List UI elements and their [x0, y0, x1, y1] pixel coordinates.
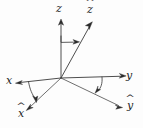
- axis-label-y-hat: ^ y: [127, 100, 133, 111]
- z-hat-axis: [61, 22, 92, 78]
- z-axis: [58, 19, 63, 78]
- y-axis: [61, 73, 126, 78]
- axis-label-z: z: [56, 3, 62, 14]
- axis-label-y-text: y: [126, 69, 132, 82]
- coordinate-frame-figure: z ^ z x y ^ x ^ y: [0, 0, 143, 128]
- rotation-arc-y: [95, 77, 102, 93]
- rotation-arc-x: [29, 82, 38, 103]
- hat-accent-y: ^: [125, 93, 135, 103]
- axis-label-x-text: x: [6, 74, 12, 87]
- axis-label-y: y: [126, 70, 132, 81]
- rotation-arc-z: [61, 36, 80, 44]
- x-axis: [15, 78, 61, 84]
- x-hat-axis: [26, 78, 61, 111]
- hat-accent-x: ^: [16, 101, 26, 111]
- axis-label-x-hat: ^ x: [18, 108, 24, 119]
- axis-label-z-hat: ^ z: [87, 4, 93, 15]
- axis-label-z-text: z: [56, 2, 62, 15]
- hat-accent-z: ^: [85, 0, 95, 7]
- axis-label-x: x: [6, 75, 12, 86]
- y-hat-axis: [61, 78, 123, 109]
